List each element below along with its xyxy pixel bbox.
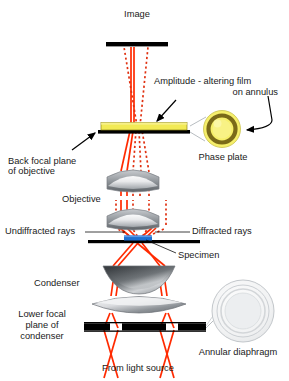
label-from-light-source: From light source [84, 363, 192, 374]
phase-plate-icon [204, 111, 241, 148]
label-objective: Objective [62, 194, 122, 205]
label-amplitude-film-line2: on annulus [154, 87, 278, 98]
label-specimen: Specimen [178, 250, 244, 261]
label-diffracted-rays: Diffracted rays [192, 226, 286, 237]
label-annular-diaphragm: Annular diaphragm [188, 347, 288, 358]
annular-diaphragm-icon [212, 280, 274, 342]
specimen-slide-bar [88, 236, 200, 244]
annular-diaphragm-bar [84, 322, 206, 332]
phase-plate-bar [98, 123, 190, 134]
label-lower-focal-plane-line2: plane of [6, 320, 78, 331]
label-undiffracted-rays: Undiffracted rays [5, 226, 91, 237]
objective-lens-upper [107, 170, 159, 192]
label-lower-focal-plane-line3: condenser [6, 331, 78, 342]
label-back-focal-plane-line2: of objective [8, 166, 100, 177]
label-condenser: Condenser [34, 278, 102, 289]
condenser-lens-upper [103, 266, 175, 294]
label-image: Image [104, 9, 170, 20]
condenser-lens-lower [92, 297, 186, 314]
label-amplitude-film-line1: Amplitude - altering film [154, 76, 289, 87]
label-back-focal-plane-line1: Back focal plane [8, 156, 100, 167]
phase-contrast-diagram: Image Amplitude - altering film on annul… [0, 0, 289, 381]
image-plane-bar [106, 42, 168, 46]
label-phase-plate: Phase plate [181, 152, 265, 163]
objective-lens-lower [107, 209, 159, 230]
label-lower-focal-plane-line1: Lower focal [6, 309, 78, 320]
